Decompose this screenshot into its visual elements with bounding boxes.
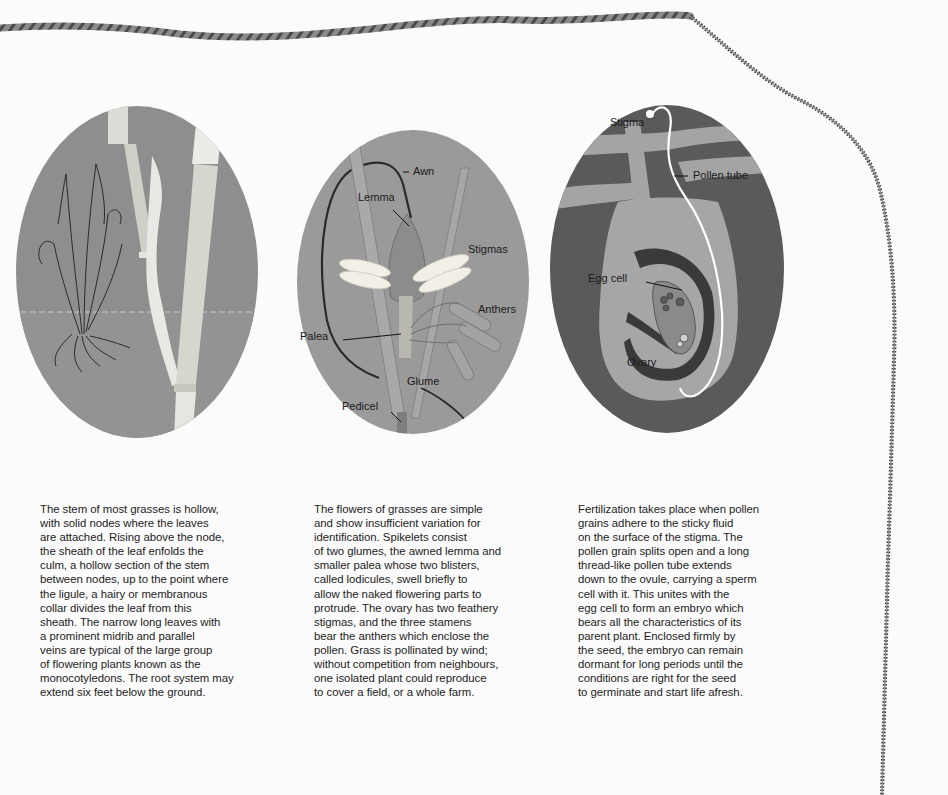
- text-line: sheath. The narrow long leaves with: [40, 615, 250, 629]
- text-line: bear the anthers which enclose the: [314, 629, 524, 643]
- label-egg-cell: Egg cell: [588, 272, 627, 284]
- text-line: collar divides the leaf from this: [40, 601, 250, 615]
- label-lemma: Lemma: [358, 191, 395, 203]
- text-line: The flowers of grasses are simple: [314, 502, 524, 516]
- text-line: Fertilization takes place when pollen: [578, 502, 788, 516]
- text-line: monocotyledons. The root system may: [40, 671, 250, 685]
- text-line: culm, a hollow section of the stem: [40, 558, 250, 572]
- plate-fertilization-illustration: Stigma Pollen tube Egg cell Ovary: [548, 102, 786, 436]
- text-line: on the surface of the stigma. The: [578, 530, 788, 544]
- text-line: down to the ovule, carrying a sperm: [578, 572, 788, 586]
- text-line: without competition from neighbours,: [314, 657, 524, 671]
- plate-stem-illustration: [12, 104, 262, 440]
- text-line: parent plant. Enclosed firmly by: [578, 629, 788, 643]
- text-line: cell with it. This unites with the: [578, 587, 788, 601]
- label-awn: Awn: [413, 165, 434, 177]
- text-line: with solid nodes where the leaves: [40, 516, 250, 530]
- text-line: conditions are right for the seed: [578, 671, 788, 685]
- text-line: between nodes, up to the point where: [40, 572, 250, 586]
- text-line: thread-like pollen tube extends: [578, 558, 788, 572]
- text-line: and show insufficient variation for: [314, 516, 524, 530]
- text-line: the seed, the embryo can remain: [578, 643, 788, 657]
- label-ovary: Ovary: [627, 356, 656, 368]
- text-line: identification. Spikelets consist: [314, 530, 524, 544]
- text-line: the ligule, a hairy or membranous: [40, 587, 250, 601]
- text-column-fertilization: Fertilization takes place when pollen gr…: [578, 502, 788, 699]
- text-line: stigmas, and the three stamens: [314, 615, 524, 629]
- fertilization-illustration-image: [548, 102, 786, 436]
- text-line: pollen grain splits open and a long: [578, 544, 788, 558]
- label-stigmas: Stigmas: [468, 243, 508, 255]
- text-line: extend six feet below the ground.: [40, 685, 250, 699]
- label-stigma: Stigma: [610, 116, 644, 128]
- text-line: one isolated plant could reproduce: [314, 671, 524, 685]
- text-line: to cover a field, or a whole farm.: [314, 685, 524, 699]
- text-line: pollen. Grass is pollinated by wind;: [314, 643, 524, 657]
- label-pollen-tube: Pollen tube: [693, 169, 748, 181]
- text-line: are attached. Rising above the node,: [40, 530, 250, 544]
- text-line: called lodicules, swell briefly to: [314, 572, 524, 586]
- text-line: a prominent midrib and parallel: [40, 629, 250, 643]
- text-column-stem: The stem of most grasses is hollow, with…: [40, 502, 250, 699]
- text-line: grains adhere to the sticky fluid: [578, 516, 788, 530]
- label-anthers: Anthers: [478, 303, 516, 315]
- text-line: The stem of most grasses is hollow,: [40, 502, 250, 516]
- text-line: veins are typical of the large group: [40, 643, 250, 657]
- stem-illustration-image: [12, 104, 262, 440]
- text-line: smaller palea whose two blisters,: [314, 558, 524, 572]
- text-line: the sheath of the leaf enfolds the: [40, 544, 250, 558]
- text-line: of two glumes, the awned lemma and: [314, 544, 524, 558]
- label-pedicel: Pedicel: [342, 400, 378, 412]
- text-line: protrude. The ovary has two feathery: [314, 601, 524, 615]
- text-line: egg cell to form an embryo which: [578, 601, 788, 615]
- text-column-flower: The flowers of grasses are simple and sh…: [314, 502, 524, 699]
- plate-flower-illustration: Awn Lemma Stigmas Anthers Palea Glume Pe…: [295, 128, 531, 440]
- text-line: dormant for long periods until the: [578, 657, 788, 671]
- label-glume: Glume: [407, 375, 439, 387]
- text-line: allow the naked flowering parts to: [314, 587, 524, 601]
- label-palea: Palea: [300, 330, 328, 342]
- text-line: to germinate and start life afresh.: [578, 685, 788, 699]
- text-line: of flowering plants known as the: [40, 657, 250, 671]
- text-line: bears all the characteristics of its: [578, 615, 788, 629]
